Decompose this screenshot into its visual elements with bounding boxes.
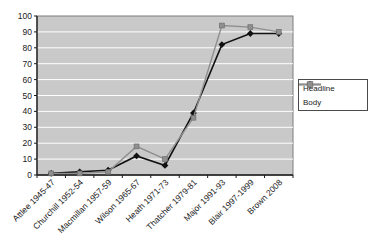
legend-label-body: Body [303,98,321,107]
y-tick-label: 70 [23,59,33,69]
chart: 0102030405060708090100Attlee 1945-47Chur… [0,0,372,242]
chart-svg: 0102030405060708090100Attlee 1945-47Chur… [0,0,372,242]
x-tick-label: Churchill 1952-54 [31,177,85,231]
marker-body [106,169,111,174]
y-tick-label: 10 [23,154,33,164]
marker-body [77,171,82,176]
marker-body [134,144,139,149]
y-tick-label: 30 [23,122,33,132]
legend: Headline Body [298,79,368,111]
y-tick-label: 80 [23,43,33,53]
y-tick-label: 90 [23,27,33,37]
marker-body [276,30,281,35]
marker-body [49,171,54,176]
marker-body [191,115,196,120]
x-tick-label: Thatcher 1979-81 [144,177,199,232]
y-tick-label: 60 [23,75,33,85]
y-tick-label: 40 [23,106,33,116]
y-tick-label: 0 [27,170,32,180]
legend-item-body: Body [303,96,367,108]
y-tick-label: 20 [23,138,33,148]
marker-body [248,25,253,30]
body-series-icon [299,80,321,89]
y-tick-label: 100 [18,11,32,21]
y-tick-label: 50 [23,91,33,101]
marker-body [163,157,168,162]
marker-body [219,23,224,28]
